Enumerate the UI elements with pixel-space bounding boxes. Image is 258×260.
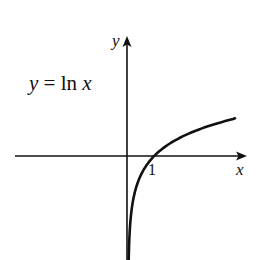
equation-equals: = <box>38 71 60 95</box>
equation-lhs: y <box>29 71 38 95</box>
x-tick-label-1: 1 <box>148 161 156 179</box>
y-axis-label: y <box>112 31 120 51</box>
x-axis-label: x <box>236 160 244 180</box>
ln-curve <box>129 118 235 260</box>
equation-function: ln <box>61 71 77 95</box>
ln-graph <box>0 0 258 260</box>
equation-arg: x <box>82 71 91 95</box>
equation-label: y = ln x <box>29 71 92 96</box>
